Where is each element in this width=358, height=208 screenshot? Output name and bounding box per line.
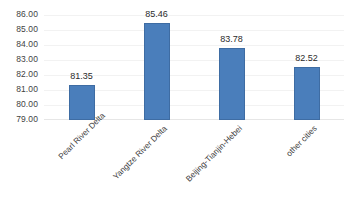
y-axis-tick-label: 82.00 xyxy=(0,70,38,79)
x-axis-category-label: Yangtze River Delta xyxy=(79,124,169,208)
y-axis-tick-label: 86.00 xyxy=(0,10,38,19)
y-axis-tick-label: 81.00 xyxy=(0,85,38,94)
bar[interactable] xyxy=(69,85,95,120)
x-axis: Pearl River DeltaYangtze River DeltaBeij… xyxy=(44,120,344,208)
bar-slot: 82.52 xyxy=(269,15,344,120)
bar-slot: 81.35 xyxy=(44,15,119,120)
bar-value-label: 81.35 xyxy=(70,71,93,81)
y-axis-tick-label: 79.00 xyxy=(0,115,38,124)
bar[interactable] xyxy=(144,23,170,120)
bar[interactable] xyxy=(219,48,245,120)
bar-value-label: 83.78 xyxy=(220,34,243,44)
y-axis-tick-label: 84.00 xyxy=(0,40,38,49)
bar-chart: 86.0085.0084.0083.0082.0081.0080.0079.00… xyxy=(0,0,358,208)
y-axis-tick-label: 85.00 xyxy=(0,25,38,34)
bar-slot: 85.46 xyxy=(119,15,194,120)
bar-slot: 83.78 xyxy=(194,15,269,120)
y-axis-tick-label: 83.00 xyxy=(0,55,38,64)
bar[interactable] xyxy=(294,67,320,120)
bar-value-label: 85.46 xyxy=(145,9,168,19)
plot-area: 81.3585.4683.7882.52 xyxy=(44,15,344,120)
bar-value-label: 82.52 xyxy=(295,53,318,63)
y-axis-tick-label: 80.00 xyxy=(0,100,38,109)
y-axis: 86.0085.0084.0083.0082.0081.0080.0079.00 xyxy=(0,0,40,208)
x-axis-category-label: Pearl River Delta xyxy=(57,124,94,161)
